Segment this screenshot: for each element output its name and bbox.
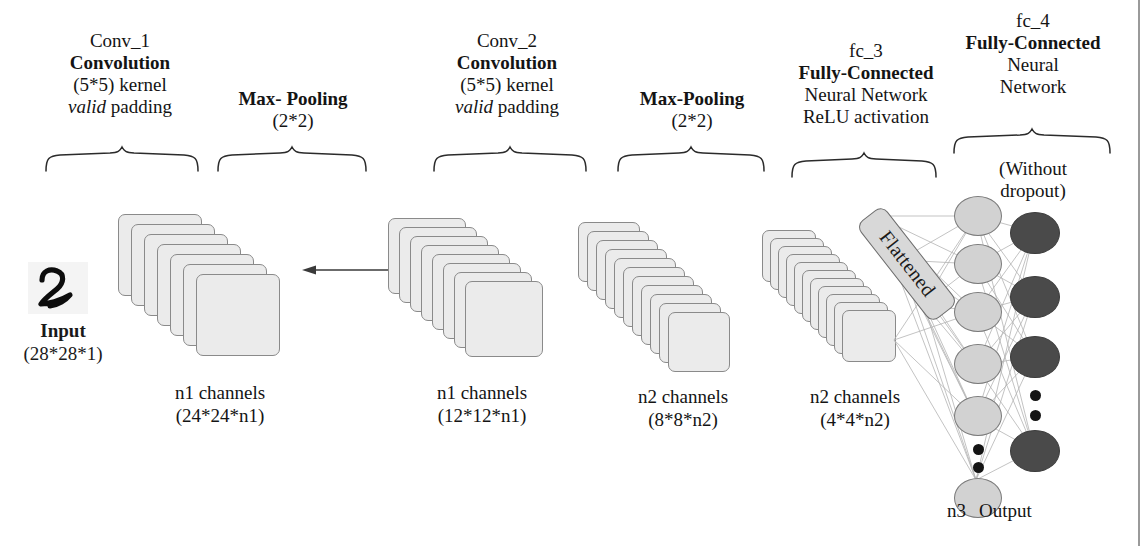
feature-map-stack-conv2-out bbox=[578, 222, 758, 382]
stage-label-maxpool-1: Max- Pooling (2*2) bbox=[213, 88, 373, 132]
fc4-line-1: fc_4 bbox=[943, 10, 1123, 32]
conv2-valid-em: valid bbox=[455, 96, 493, 117]
output-layer-ellipsis-dot bbox=[1030, 410, 1041, 421]
output-text: Output bbox=[979, 500, 1032, 521]
hidden-neuron bbox=[954, 344, 1002, 384]
output-neuron bbox=[1010, 212, 1060, 254]
caption-conv1-out: n1 channels (24*24*n1) bbox=[130, 382, 310, 428]
fc3-line-4: ReLU activation bbox=[783, 106, 949, 128]
stage-label-conv-2: Conv_2 Convolution (5*5) kernel valid pa… bbox=[417, 30, 597, 118]
hidden-neuron bbox=[954, 292, 1002, 332]
brace-fc-3 bbox=[790, 152, 938, 178]
stage-label-maxpool-2: Max-Pooling (2*2) bbox=[612, 88, 772, 132]
hidden-neuron bbox=[954, 244, 1002, 284]
stage-label-conv-1: Conv_1 Convolution (5*5) kernel valid pa… bbox=[30, 30, 210, 118]
conv1-valid-em: valid bbox=[68, 96, 106, 117]
feature-map-stack-pool1-out bbox=[388, 218, 588, 378]
conv1-line-2: Convolution bbox=[30, 52, 210, 74]
n3-text: n3 bbox=[947, 500, 966, 521]
conv2-line-1: Conv_2 bbox=[417, 30, 597, 52]
feature-map-card bbox=[196, 274, 280, 356]
conv2-line-3: (5*5) kernel bbox=[417, 74, 597, 96]
conv1-line-3: (5*5) kernel bbox=[30, 74, 210, 96]
pool2-line-1: Max-Pooling bbox=[612, 88, 772, 110]
conv1-line-4: valid padding bbox=[30, 96, 210, 118]
handwritten-digit-2-glyph bbox=[28, 262, 88, 314]
conv2-line-4: valid padding bbox=[417, 96, 597, 118]
hidden-neuron bbox=[954, 196, 1002, 236]
cnn-architecture-diagram: Conv_1 Convolution (5*5) kernel valid pa… bbox=[0, 0, 1148, 546]
caption-channels: n1 channels bbox=[392, 382, 572, 405]
feature-map-card bbox=[668, 312, 730, 372]
caption-shape: (12*12*n1) bbox=[392, 405, 572, 428]
output-neuron bbox=[1010, 276, 1060, 318]
caption-shape: (8*8*n2) bbox=[598, 409, 768, 432]
fc3-line-3: Neural Network bbox=[783, 84, 949, 106]
brace-conv-1 bbox=[44, 146, 200, 172]
fc3-line-2: Fully-Connected bbox=[783, 62, 949, 84]
caption-pool1-out: n1 channels (12*12*n1) bbox=[392, 382, 572, 428]
fc4-line-3: Neural bbox=[943, 54, 1123, 76]
caption-conv2-out: n2 channels (8*8*n2) bbox=[598, 386, 768, 432]
conv1-line-1: Conv_1 bbox=[30, 30, 210, 52]
page-edge-rule bbox=[1138, 0, 1140, 546]
stage-label-fc-4: fc_4 Fully-Connected Neural Network bbox=[943, 10, 1123, 98]
input-digit-image bbox=[28, 262, 88, 314]
caption-channels: n2 channels bbox=[598, 386, 768, 409]
brace-fc-4 bbox=[952, 128, 1112, 154]
hidden-layer-ellipsis-dot bbox=[973, 444, 984, 455]
output-label: Output bbox=[979, 500, 1032, 522]
output-neuron bbox=[1010, 430, 1060, 472]
conv2-padding-text: padding bbox=[493, 96, 559, 117]
input-label: Input bbox=[8, 320, 118, 343]
feature-map-card bbox=[465, 281, 543, 357]
stage-label-fc-3: fc_3 Fully-Connected Neural Network ReLU… bbox=[783, 40, 949, 128]
pool1-line-2: (2*2) bbox=[213, 110, 373, 132]
output-layer-ellipsis-dot bbox=[1030, 390, 1041, 401]
hidden-neuron bbox=[954, 396, 1002, 436]
fc4-note-line-1: (Without bbox=[943, 158, 1123, 180]
conv1-padding-text: padding bbox=[106, 96, 172, 117]
fc4-line-2: Fully-Connected bbox=[943, 32, 1123, 54]
brace-conv-2 bbox=[432, 146, 588, 172]
output-neuron bbox=[1010, 336, 1060, 378]
output-neuron-count-label: n3 bbox=[947, 500, 966, 522]
caption-shape: (24*24*n1) bbox=[130, 405, 310, 428]
brace-maxpool-2 bbox=[616, 146, 766, 172]
fc3-line-1: fc_3 bbox=[783, 40, 949, 62]
brace-maxpool-1 bbox=[216, 146, 368, 172]
input-dimensions: (28*28*1) bbox=[8, 343, 118, 366]
feature-map-stack-conv1-out bbox=[118, 214, 318, 374]
input-caption: Input (28*28*1) bbox=[8, 320, 118, 366]
conv2-line-2: Convolution bbox=[417, 52, 597, 74]
pool2-line-2: (2*2) bbox=[612, 110, 772, 132]
hidden-layer-ellipsis-dot bbox=[973, 462, 984, 473]
caption-channels: n1 channels bbox=[130, 382, 310, 405]
fc4-line-4: Network bbox=[943, 76, 1123, 98]
pool1-line-1: Max- Pooling bbox=[213, 88, 373, 110]
